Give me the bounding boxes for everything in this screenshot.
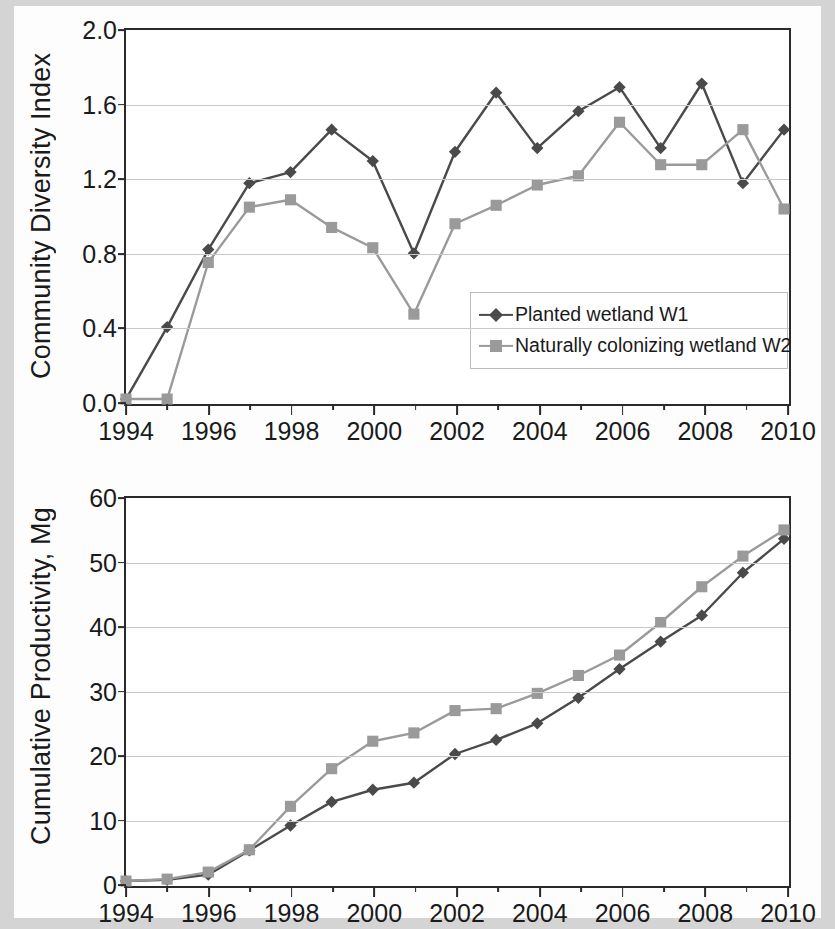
chart-panel-community-diversity: Community Diversity Index Planted wetlan… xyxy=(14,6,821,458)
figure-canvas: Community Diversity Index Planted wetlan… xyxy=(14,6,821,918)
x-tick-mark-minor xyxy=(663,404,665,410)
gridline xyxy=(126,254,789,255)
data-point-marker-w2 xyxy=(491,200,502,211)
y-axis-label-bottom: Cumulative Productivity, Mg xyxy=(26,476,57,876)
data-point-marker-w2 xyxy=(532,179,543,190)
data-point-marker-w2 xyxy=(285,801,296,812)
data-point-marker-w2 xyxy=(244,202,255,213)
x-tick-mark-major xyxy=(787,886,789,897)
data-point-marker-w2 xyxy=(408,309,419,320)
x-tick-mark-major xyxy=(373,886,375,897)
x-tick-mark-minor xyxy=(166,404,168,410)
x-tick-mark-major xyxy=(539,404,541,415)
data-point-marker-w2 xyxy=(696,581,707,592)
data-point-marker-w2 xyxy=(573,670,584,681)
x-tick-mark-major xyxy=(208,886,210,897)
y-tick-label: 0.0 xyxy=(82,389,126,418)
y-tick-label: 0.4 xyxy=(82,314,126,343)
plot-area-top: Planted wetland W1 Naturally colonizing … xyxy=(124,28,791,406)
x-tick-label: 1994 xyxy=(98,417,154,446)
y-tick-label: 0.8 xyxy=(82,239,126,268)
data-point-marker-w2 xyxy=(532,688,543,699)
gridline xyxy=(126,179,789,180)
data-point-marker-w1 xyxy=(696,77,708,89)
data-point-marker-w2 xyxy=(408,727,419,738)
plot-area-bottom: 0102030405060199419961998200020022004200… xyxy=(124,496,791,888)
data-point-marker-w2 xyxy=(326,222,337,233)
y-tick-label: 40 xyxy=(89,613,126,642)
gridline xyxy=(126,105,789,106)
x-tick-mark-minor xyxy=(580,886,582,892)
data-point-marker-w2 xyxy=(696,159,707,170)
x-tick-label: 1996 xyxy=(181,899,237,928)
x-tick-label: 2006 xyxy=(595,899,651,928)
legend-item-w1: Planted wetland W1 xyxy=(479,299,777,330)
gridline xyxy=(126,756,789,757)
data-point-marker-w1 xyxy=(161,321,173,333)
data-point-marker-w1 xyxy=(325,796,337,808)
data-point-marker-w2 xyxy=(778,203,789,214)
y-tick-label: 2.0 xyxy=(82,16,126,45)
x-tick-mark-major xyxy=(456,886,458,897)
data-point-marker-w2 xyxy=(367,242,378,253)
data-point-marker-w2 xyxy=(244,844,255,855)
data-point-marker-w2 xyxy=(614,650,625,661)
legend-label-w1: Planted wetland W1 xyxy=(515,303,688,326)
y-tick-label: 10 xyxy=(89,806,126,835)
y-tick-label: 30 xyxy=(89,677,126,706)
x-tick-label: 2010 xyxy=(760,899,816,928)
x-tick-mark-major xyxy=(539,886,541,897)
data-point-marker-w2 xyxy=(449,218,460,229)
y-axis-label-top: Community Diversity Index xyxy=(26,16,57,416)
x-tick-label: 1998 xyxy=(264,417,320,446)
data-point-marker-w2 xyxy=(778,524,789,535)
data-point-marker-w2 xyxy=(614,117,625,128)
y-tick-label: 60 xyxy=(89,484,126,513)
x-tick-label: 2002 xyxy=(429,417,485,446)
data-point-marker-w2 xyxy=(367,736,378,747)
x-tick-mark-major xyxy=(704,886,706,897)
chart-panel-cumulative-productivity: Cumulative Productivity, Mg 010203040506… xyxy=(14,458,821,918)
gridline xyxy=(126,821,789,822)
x-tick-mark-minor xyxy=(249,404,251,410)
x-tick-mark-minor xyxy=(497,404,499,410)
x-tick-mark-minor xyxy=(166,886,168,892)
gridline xyxy=(126,627,789,628)
data-point-marker-w2 xyxy=(737,551,748,562)
data-point-marker-w2 xyxy=(162,874,173,885)
x-tick-label: 2004 xyxy=(512,899,568,928)
gridline xyxy=(126,692,789,693)
x-tick-mark-minor xyxy=(249,886,251,892)
y-tick-label: 0 xyxy=(103,871,126,900)
x-tick-mark-minor xyxy=(746,886,748,892)
gridline xyxy=(126,563,789,564)
x-tick-mark-major xyxy=(704,404,706,415)
x-tick-label: 2006 xyxy=(595,417,651,446)
data-point-marker-w2 xyxy=(491,703,502,714)
legend-label-w2: Naturally colonizing wetland W2 xyxy=(515,334,791,357)
x-tick-mark-major xyxy=(622,404,624,415)
x-tick-mark-major xyxy=(125,886,127,897)
x-tick-label: 2008 xyxy=(677,899,733,928)
data-point-marker-w2 xyxy=(162,394,173,405)
data-point-marker-w2 xyxy=(203,867,214,878)
y-tick-label: 1.6 xyxy=(82,90,126,119)
x-tick-label: 2000 xyxy=(346,899,402,928)
x-tick-mark-minor xyxy=(415,404,417,410)
x-tick-mark-major xyxy=(291,404,293,415)
data-point-marker-w1 xyxy=(490,734,502,746)
data-point-marker-w2 xyxy=(737,124,748,135)
data-point-marker-w2 xyxy=(655,159,666,170)
data-point-marker-w2 xyxy=(203,257,214,268)
x-tick-mark-minor xyxy=(746,404,748,410)
data-point-marker-w2 xyxy=(326,763,337,774)
legend-item-w2: Naturally colonizing wetland W2 xyxy=(479,330,777,361)
data-point-marker-w2 xyxy=(449,705,460,716)
x-tick-mark-minor xyxy=(497,886,499,892)
x-tick-mark-minor xyxy=(415,886,417,892)
x-tick-label: 2004 xyxy=(512,417,568,446)
x-tick-label: 2008 xyxy=(677,417,733,446)
x-tick-label: 2002 xyxy=(429,899,485,928)
x-tick-mark-major xyxy=(208,404,210,415)
x-tick-label: 1994 xyxy=(98,899,154,928)
